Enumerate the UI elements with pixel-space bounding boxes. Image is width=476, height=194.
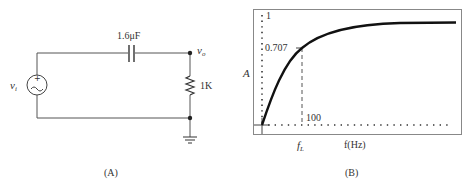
x-axis-label: f(Hz) (344, 140, 366, 150)
y-tick-1: 1 (266, 11, 271, 21)
y-tick-0707: 0.707 (265, 43, 288, 53)
y-axis-label: A (243, 68, 250, 79)
resistor-zigzag (186, 76, 194, 95)
input-voltage-sub: i (15, 85, 17, 93)
output-voltage-label: vo (197, 45, 205, 58)
source-plus-sign: + (34, 75, 41, 83)
output-node (188, 51, 192, 55)
diagram-canvas (0, 0, 476, 194)
ground-node (188, 116, 192, 120)
output-voltage-sub: o (202, 50, 206, 58)
sine-wave-icon (31, 87, 43, 91)
input-voltage-label: vi (10, 80, 17, 93)
response-curve (262, 23, 456, 126)
capacitor-label: 1.6μF (117, 31, 140, 41)
caption-b: (B) (345, 168, 358, 178)
caption-a: (A) (104, 168, 118, 178)
fl-sub: L (300, 145, 304, 153)
resistor-label: 1K (200, 81, 212, 91)
response-graph (254, 10, 462, 135)
graph-frame (254, 10, 462, 135)
circuit-schematic (27, 45, 197, 143)
x-tick-100: 100 (306, 113, 321, 123)
fl-label: fL (297, 140, 304, 153)
